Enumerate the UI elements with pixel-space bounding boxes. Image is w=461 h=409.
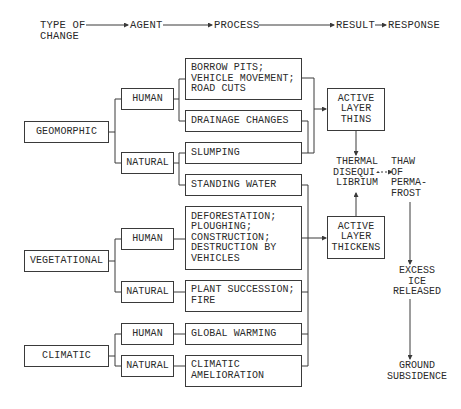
header-response: RESPONSE [388,20,440,31]
agent-climatic-natural: NATURAL [121,355,174,377]
process-global-warming: GLOBAL WARMING [185,323,302,345]
agent-vegetational-human: HUMAN [121,228,174,250]
process-standing-water: STANDING WATER [185,174,302,196]
agent-climatic-human: HUMAN [121,323,174,345]
agent-geomorphic-natural: NATURAL [121,152,174,174]
process-climatic-amelioration: CLIMATIC AMELIORATION [185,355,302,387]
result-active-layer-thins: ACTIVE LAYER THINS [327,88,385,131]
header-type-of-change: TYPE OF CHANGE [40,20,86,42]
process-drainage-changes: DRAINAGE CHANGES [185,110,302,132]
header-agent: AGENT [130,20,163,31]
response-excess-ice-released: EXCESS ICE RELEASED [386,266,448,298]
response-ground-subsidence: GROUND SUBSIDENCE [374,361,460,382]
type-vegetational: VEGETATIONAL [24,250,109,272]
result-thermal-disequilibrium: THERMAL DISEQUI- LIBRIUM [331,157,383,189]
agent-geomorphic-human: HUMAN [121,88,174,110]
type-climatic: CLIMATIC [24,345,109,367]
process-deforestation: DEFORESTATION; PLOUGHING; CONSTRUCTION; … [185,206,302,270]
process-slumping: SLUMPING [185,142,302,164]
header-result: RESULT [336,20,375,31]
response-thaw-of-permafrost: THAW OF PERMA- FROST [391,157,435,199]
result-active-layer-thickens: ACTIVE LAYER THICKENS [327,216,385,259]
type-geomorphic: GEOMORPHIC [24,121,109,143]
agent-vegetational-natural: NATURAL [121,281,174,303]
process-plant-succession: PLANT SUCCESSION; FIRE [185,280,302,312]
header-process: PROCESS [214,20,260,31]
process-borrow-pits: BORROW PITS; VEHICLE MOVEMENT; ROAD CUTS [185,58,302,100]
